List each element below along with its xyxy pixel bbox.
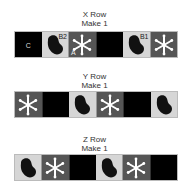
tile-label: C: [15, 42, 42, 49]
mitten-icon: [18, 157, 38, 179]
tile-label: A: [71, 49, 76, 56]
tile-black: C: [15, 32, 42, 57]
tile-snowflake: [42, 155, 69, 180]
tile-mitten: [96, 155, 123, 180]
tile-mitten: [69, 92, 97, 117]
tile-mitten: B2: [42, 32, 70, 57]
mitten-icon: [99, 157, 119, 179]
tile-black: [97, 32, 124, 57]
tile-snowflake: [15, 92, 43, 117]
tile-black: [124, 92, 151, 117]
y-row-tiles: [14, 91, 178, 118]
snowflake-icon: [44, 157, 66, 179]
row-subtitle: Make 1: [0, 81, 189, 90]
row-title: X Row: [0, 10, 189, 19]
tile-snowflake: [97, 92, 125, 117]
z-row-tiles: [14, 154, 178, 181]
snowflake-icon: [153, 34, 175, 56]
x-row-title: X Row Make 1: [0, 10, 189, 28]
tile-mitten: [151, 92, 178, 117]
tile-snowflake: [151, 32, 178, 57]
z-row-title: Z Row Make 1: [0, 135, 189, 153]
tile-label: B2: [58, 33, 67, 40]
tile-mitten: [15, 155, 42, 180]
mitten-icon: [72, 94, 92, 116]
tile-label: B1: [140, 33, 149, 40]
snowflake-icon: [99, 94, 121, 116]
tile-black: [43, 92, 70, 117]
tile-mitten: B1: [123, 32, 151, 57]
tile-snowflake: [123, 155, 150, 180]
row-title: Y Row: [0, 72, 189, 81]
tile-snowflake: A: [69, 32, 97, 57]
tile-black: [70, 155, 96, 180]
y-row-title: Y Row Make 1: [0, 72, 189, 90]
row-title: Z Row: [0, 135, 189, 144]
tile-black: [151, 155, 177, 180]
x-row-tiles: C B2 A B1: [14, 31, 178, 58]
snowflake-icon: [125, 157, 147, 179]
row-subtitle: Make 1: [0, 144, 189, 153]
snowflake-icon: [17, 94, 39, 116]
mitten-icon: [154, 94, 174, 116]
row-subtitle: Make 1: [0, 19, 189, 28]
